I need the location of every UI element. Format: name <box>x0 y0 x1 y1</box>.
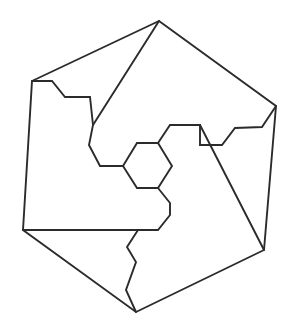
line-drawing-svg <box>0 0 297 327</box>
figure-canvas <box>0 0 297 327</box>
canvas-background <box>0 0 297 327</box>
